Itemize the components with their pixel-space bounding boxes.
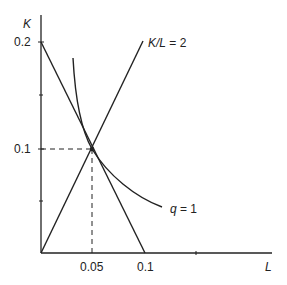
x-tick-label-0.1: 0.1 xyxy=(137,260,154,274)
y-axis-label: K xyxy=(23,17,32,31)
tangency-point xyxy=(90,147,94,151)
x-axis-label: L xyxy=(265,260,272,274)
isoquant-diagram: K L 0.2 0.1 0.05 0.1 K/L = 2 q = 1 xyxy=(0,0,287,285)
x-tick-label-0.05: 0.05 xyxy=(80,260,104,274)
isoquant-label: q = 1 xyxy=(170,202,197,216)
y-tick-label-0.2: 0.2 xyxy=(14,35,31,49)
y-tick-label-0.1: 0.1 xyxy=(14,142,31,156)
expansion-ray-label: K/L = 2 xyxy=(148,36,187,50)
